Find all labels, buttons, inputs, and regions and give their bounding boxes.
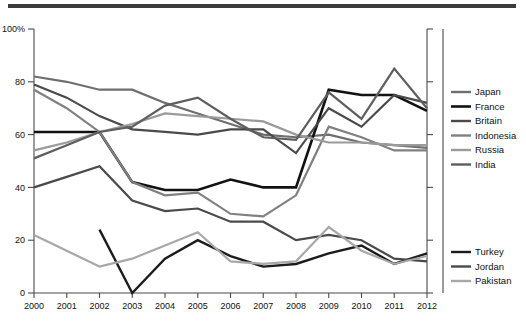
line-chart: 020406080100% 20002001200220032004200520…	[0, 14, 526, 314]
y-tick-label: 60	[15, 130, 25, 140]
x-tick-label: 2006	[220, 301, 240, 311]
x-tick-label: 2011	[385, 301, 404, 311]
x-tick-label: 2004	[155, 301, 175, 311]
x-tick-label: 2005	[188, 301, 208, 311]
chart-page: 020406080100% 20002001200220032004200520…	[0, 0, 526, 323]
legend-label-indonesia[interactable]: Indonesia	[475, 130, 517, 141]
chart-canvas: 020406080100% 20002001200220032004200520…	[0, 14, 526, 314]
x-tick-label: 2001	[57, 301, 77, 311]
legend-label-japan[interactable]: Japan	[475, 86, 501, 97]
series-line-turkey	[100, 230, 428, 293]
y-tick-label: 0	[20, 288, 25, 298]
legend-label-france[interactable]: France	[475, 101, 505, 112]
legend-label-india[interactable]: India	[475, 159, 496, 170]
legend-label-turkey[interactable]: Turkey	[475, 246, 504, 257]
x-tick-label: 2002	[89, 301, 109, 311]
legend-label-pakistan[interactable]: Pakistan	[475, 275, 511, 286]
x-tick-label: 2003	[122, 301, 142, 311]
x-tick-label: 2010	[351, 301, 371, 311]
legend-label-jordan[interactable]: Jordan	[475, 261, 504, 272]
y-tick-label: 100%	[2, 24, 25, 34]
x-tick-label: 2012	[417, 301, 437, 311]
x-axis-labels: 2000200120022003200420052006200720082009…	[24, 301, 437, 311]
top-divider-rule	[8, 4, 516, 8]
series-line-pakistan	[34, 227, 427, 267]
x-axis-ticks	[34, 293, 427, 298]
y-tick-label: 40	[15, 183, 25, 193]
series-lines	[34, 69, 427, 293]
legend-label-russia[interactable]: Russia	[475, 144, 505, 155]
chart-legend: JapanFranceBritainIndonesiaRussiaIndiaTu…	[451, 86, 517, 286]
legend-label-britain[interactable]: Britain	[475, 115, 502, 126]
y-tick-label: 20	[15, 235, 25, 245]
x-tick-label: 2008	[286, 301, 306, 311]
y-axis-ticks	[28, 29, 433, 293]
x-tick-label: 2009	[319, 301, 339, 311]
y-axis-labels: 020406080100%	[2, 24, 25, 298]
y-tick-label: 80	[15, 77, 25, 87]
x-tick-label: 2000	[24, 301, 44, 311]
x-tick-label: 2007	[253, 301, 273, 311]
